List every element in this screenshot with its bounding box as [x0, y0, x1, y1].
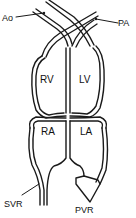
ao-pointer-dot — [43, 12, 45, 14]
pa-pointer-dot — [95, 18, 97, 20]
label-pulmonary-artery: PA — [118, 19, 129, 28]
chamber-ra: RA — [41, 127, 55, 137]
label-aorta: Ao — [2, 14, 13, 23]
pa-leader-line — [96, 19, 118, 23]
chamber-lv: LV — [79, 75, 91, 85]
svr-leader-line — [22, 184, 39, 195]
chamber-rv: RV — [40, 75, 54, 85]
pvr-network — [76, 176, 100, 202]
heart-diagram: Ao PA SVR PVR RV LV RA LA — [0, 0, 136, 218]
aorta-vessel — [33, 9, 72, 46]
label-pvr: PVR — [75, 206, 94, 215]
label-svr: SVR — [4, 200, 23, 209]
heart-schematic-drawing — [0, 0, 136, 218]
chamber-la: LA — [80, 127, 92, 137]
